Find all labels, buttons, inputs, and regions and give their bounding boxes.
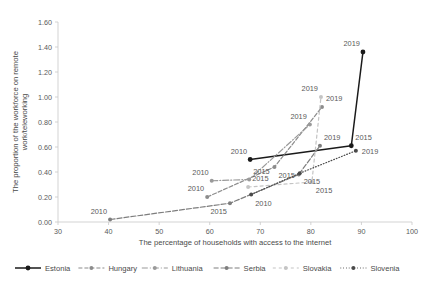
point-year-label: 2019: [302, 84, 318, 93]
point-year-label: 2015: [252, 174, 268, 183]
x-tick-label: 50: [155, 227, 163, 236]
legend-marker-icon: [351, 266, 355, 270]
legend-item-slovenia[interactable]: Slovenia: [340, 264, 400, 273]
point-year-label: 2015: [355, 133, 371, 142]
point-year-label: 2019: [362, 147, 378, 156]
data-point: [272, 165, 276, 169]
point-year-label: 2015: [304, 177, 320, 186]
point-labels-layer: 2010201520192010201520192010201520192010…: [91, 39, 379, 216]
y-tick-label: 0.40: [38, 168, 52, 177]
x-tick-label: 30: [54, 227, 62, 236]
x-tick-label: 100: [406, 227, 418, 236]
point-year-label: 2019: [326, 94, 342, 103]
legend-marker-icon: [26, 266, 31, 271]
point-year-label: 2015: [316, 186, 332, 195]
legend-label: Slovakia: [303, 264, 332, 273]
data-point: [361, 50, 366, 55]
data-point: [210, 179, 214, 183]
data-point: [247, 178, 251, 182]
chart-legend: EstoniaHungaryLithuaniaSerbiaSlovakiaSlo…: [15, 264, 400, 273]
data-point: [318, 144, 322, 148]
scatter-line-chart: 0.000.200.400.600.801.001.201.401.603040…: [0, 0, 423, 283]
y-tick-label: 0.00: [38, 218, 52, 227]
chart-container: 0.000.200.400.600.801.001.201.401.603040…: [0, 0, 423, 283]
data-point: [319, 95, 323, 99]
legend-item-estonia[interactable]: Estonia: [15, 264, 71, 273]
legend-marker-icon: [284, 266, 288, 270]
y-tick-label: 0.60: [38, 143, 52, 152]
y-tick-label: 1.20: [38, 68, 52, 77]
series-line-estonia: [250, 52, 363, 160]
legend-item-slovakia[interactable]: Slovakia: [273, 264, 332, 273]
point-year-label: 2010: [91, 207, 107, 216]
y-tick-label: 0.80: [38, 118, 52, 127]
point-year-label: 2019: [324, 133, 340, 142]
y-tick-label: 1.60: [38, 18, 52, 27]
y-axis-title-line2: work/teleworking: [20, 94, 29, 152]
legend-item-serbia[interactable]: Serbia: [214, 264, 267, 273]
x-tick-label: 80: [307, 227, 315, 236]
legend-label: Lithuania: [172, 264, 204, 273]
x-tick-label: 40: [105, 227, 113, 236]
data-point: [354, 149, 358, 153]
legend-label: Estonia: [45, 264, 71, 273]
y-tick-label: 0.20: [38, 193, 52, 202]
y-tick-label: 1.00: [38, 93, 52, 102]
legend-marker-icon: [89, 266, 93, 270]
data-point: [246, 185, 250, 189]
x-tick-label: 70: [256, 227, 264, 236]
legend-item-lithuania[interactable]: Lithuania: [142, 264, 204, 273]
data-point: [298, 171, 302, 175]
legend-label: Serbia: [244, 264, 267, 273]
point-year-label: 2010: [192, 168, 208, 177]
y-axis-title-line1: The proportion of the workforce on remot…: [11, 51, 20, 193]
series-estonia: [248, 50, 366, 162]
data-point: [205, 195, 209, 199]
data-point: [249, 193, 253, 197]
legend-item-hungary[interactable]: Hungary: [78, 264, 137, 273]
legend-marker-icon: [153, 266, 157, 270]
x-tick-label: 60: [206, 227, 214, 236]
y-tick-label: 1.40: [38, 43, 52, 52]
point-year-label: 2019: [343, 39, 359, 48]
point-year-label: 2015: [210, 207, 226, 216]
point-year-label: 2010: [231, 147, 247, 156]
legend-label: Hungary: [108, 264, 137, 273]
point-year-label: 2015: [278, 171, 294, 180]
legend-marker-icon: [225, 266, 229, 270]
data-point: [308, 123, 312, 127]
data-point: [349, 143, 354, 148]
data-point: [228, 201, 232, 205]
data-point: [108, 218, 112, 222]
point-year-label: 2019: [290, 112, 306, 121]
x-tick-label: 90: [357, 227, 365, 236]
x-axis-title: The percentage of households with access…: [139, 238, 332, 247]
point-year-label: 2010: [255, 199, 271, 208]
axis-titles: The percentage of households with access…: [11, 51, 332, 247]
legend-label: Slovenia: [370, 264, 400, 273]
point-year-label: 2010: [188, 184, 204, 193]
data-point: [248, 157, 253, 162]
